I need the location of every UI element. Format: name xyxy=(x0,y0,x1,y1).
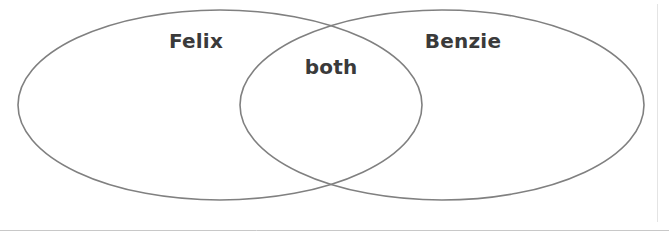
intersection-label-both: both xyxy=(305,55,358,79)
left-set-label: Felix xyxy=(169,29,223,53)
right-set-label: Benzie xyxy=(425,29,501,53)
diagram-background xyxy=(0,0,669,238)
venn-diagram: Felix Benzie both xyxy=(0,0,669,238)
